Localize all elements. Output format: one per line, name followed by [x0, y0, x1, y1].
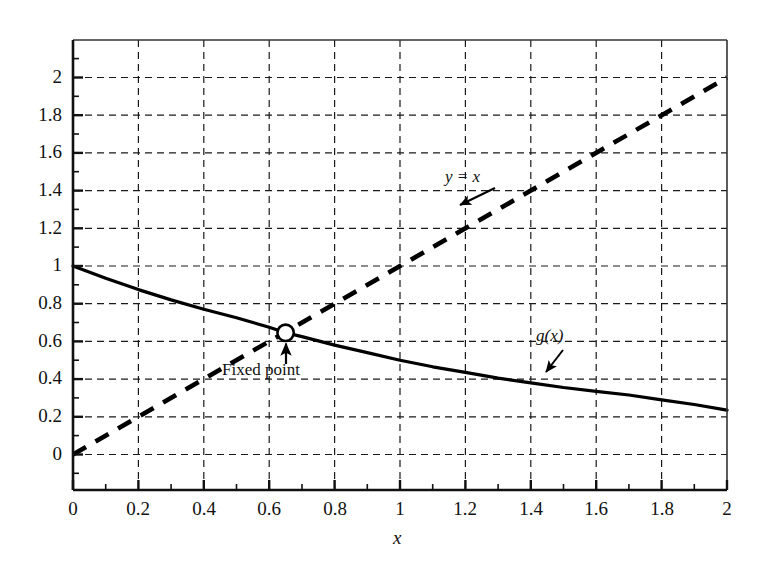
y-tick-label-1: 1 — [8, 254, 62, 276]
annotation-y-equals-x: y = x — [445, 167, 480, 187]
x-tick-label-1-4: 1.4 — [501, 498, 561, 520]
y-tick-label-2: 2 — [8, 66, 62, 88]
annotation-fixed-point: Fixed point — [222, 360, 300, 380]
x-tick-label-1-6: 1.6 — [566, 498, 626, 520]
annotation-g-of-x: g(x) — [536, 326, 563, 346]
y-tick-label-1-6: 1.6 — [8, 141, 62, 163]
y-tick-label-1-4: 1.4 — [8, 179, 62, 201]
x-tick-label-1-8: 1.8 — [632, 498, 692, 520]
x-axis-title: x — [393, 527, 401, 549]
x-tick-label-2: 2 — [697, 498, 757, 520]
x-tick-label-0-4: 0.4 — [174, 498, 234, 520]
y-tick-label-1-2: 1.2 — [8, 217, 62, 239]
y-tick-label-0-4: 0.4 — [8, 367, 62, 389]
x-tick-label-1: 1 — [370, 498, 430, 520]
x-tick-label-0-2: 0.2 — [108, 498, 168, 520]
y-tick-label-0: 0 — [8, 443, 62, 465]
x-tick-label-0-6: 0.6 — [239, 498, 299, 520]
y-tick-label-0-2: 0.2 — [8, 405, 62, 427]
figure-chart-fixed-point: 2 1.8 1.6 1.4 1.2 1 0.8 0.6 0.4 0.2 0 0 … — [0, 0, 770, 571]
fixed-point-marker — [277, 325, 293, 341]
y-tick-label-0-6: 0.6 — [8, 330, 62, 352]
y-tick-label-1-8: 1.8 — [8, 104, 62, 126]
x-tick-label-0-8: 0.8 — [305, 498, 365, 520]
x-tick-label-0: 0 — [43, 498, 103, 520]
y-tick-label-0-8: 0.8 — [8, 292, 62, 314]
plot-canvas — [0, 0, 770, 571]
x-tick-label-1-2: 1.2 — [435, 498, 495, 520]
